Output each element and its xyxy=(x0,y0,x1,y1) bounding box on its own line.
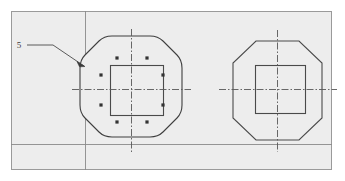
rebar-dot-top-left xyxy=(115,56,118,59)
rebar-dot-bottom-right xyxy=(145,120,148,123)
rebar-dot-low-right xyxy=(161,103,164,106)
rebar-dot-low-left xyxy=(99,103,102,106)
rebar-dot-mid-left xyxy=(99,73,102,76)
left-octagon-outline xyxy=(80,36,182,137)
drawing-canvas: 5 xyxy=(0,0,345,181)
callout-5-label: 5 xyxy=(17,40,22,50)
rebar-dot-top-right xyxy=(145,56,148,59)
rebar-dot-mid-right xyxy=(161,73,164,76)
rebar-dot-bottom-left xyxy=(115,120,118,123)
technical-drawing-page: 5 xyxy=(0,0,345,181)
